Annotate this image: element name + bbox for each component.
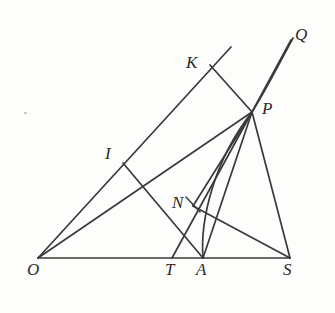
segment-S-N: [193, 206, 290, 258]
segment-K-P: [210, 65, 252, 112]
vertex-label-T: T: [165, 261, 174, 278]
segment-A-P: [203, 112, 252, 258]
vertex-label-N: N: [172, 194, 183, 211]
segment-ray-O-K: [38, 47, 231, 258]
geometry-figure: O T A S N I K P Q: [0, 0, 335, 313]
vertex-label-P: P: [262, 100, 272, 117]
segment-S-P: [252, 112, 290, 258]
vertex-label-K: K: [186, 54, 197, 71]
vertex-label-A: A: [196, 261, 206, 278]
segment-I-A: [123, 163, 203, 258]
vertex-label-O: O: [27, 261, 39, 278]
segment-O-P: [38, 112, 252, 258]
arc-P-to-Q: [252, 38, 293, 112]
vertex-label-I: I: [105, 145, 111, 162]
vertex-label-S: S: [283, 261, 292, 278]
vertex-label-Q: Q: [295, 26, 307, 43]
scan-speck-artifact: [24, 112, 27, 114]
